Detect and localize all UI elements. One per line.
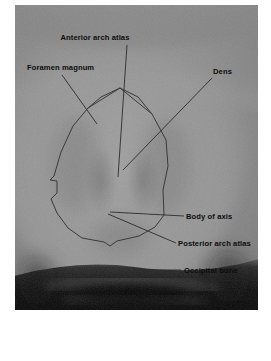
xray-image — [15, 5, 258, 310]
annotated-radiograph-figure: Anterior arch atlas Foramen magnum Dens … — [0, 0, 271, 361]
xray-plate — [15, 5, 258, 310]
